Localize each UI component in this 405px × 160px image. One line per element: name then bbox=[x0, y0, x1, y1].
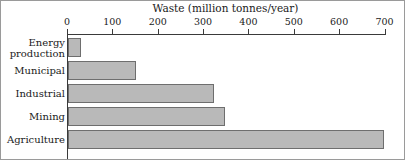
category-label-line: Energy bbox=[10, 37, 65, 48]
bar bbox=[68, 130, 384, 149]
bar bbox=[68, 38, 81, 57]
bar bbox=[68, 84, 214, 103]
category-label: Agriculture bbox=[7, 134, 65, 145]
category-label-line: production bbox=[10, 48, 65, 59]
category-label-line: Municipal bbox=[14, 65, 65, 76]
category-label-line: Agriculture bbox=[7, 134, 65, 145]
category-label: Industrial bbox=[15, 88, 65, 99]
bar-chart-figure: Waste (million tonnes/year) 010020030040… bbox=[0, 0, 405, 160]
category-label-line: Industrial bbox=[15, 88, 65, 99]
category-label-line: Mining bbox=[29, 111, 65, 122]
bar bbox=[68, 61, 136, 80]
plot-area: EnergyproductionMunicipalIndustrialMinin… bbox=[1, 1, 405, 160]
bar bbox=[68, 107, 225, 126]
category-label: Mining bbox=[29, 111, 65, 122]
category-label: Energyproduction bbox=[10, 37, 65, 59]
category-label: Municipal bbox=[14, 65, 65, 76]
